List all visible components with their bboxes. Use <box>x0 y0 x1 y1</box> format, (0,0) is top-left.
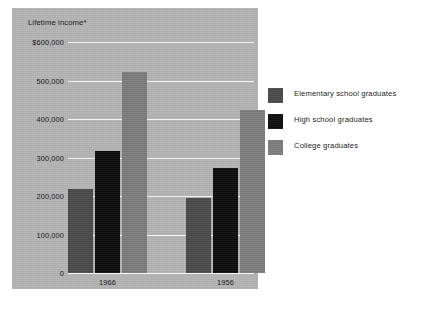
axis-baseline <box>68 273 254 274</box>
legend-label: Elementary school graduates <box>294 89 396 98</box>
y-axis-tick-label: 0 <box>60 269 64 278</box>
x-axis-tick-labels: 19661956 <box>68 278 254 292</box>
bar <box>68 189 93 273</box>
bar-chart-figure: Lifetime income* 0100,000200,000300,0004… <box>0 0 424 309</box>
bar <box>95 151 120 273</box>
legend-item: College graduates <box>268 138 418 164</box>
legend-label: High school graduates <box>294 115 373 124</box>
legend-swatch-texture <box>268 114 283 129</box>
y-axis-tick-label: 500,000 <box>37 76 64 85</box>
x-axis-tick-label: 1956 <box>217 278 234 287</box>
y-axis-tick-labels: 0100,000200,000300,000400,000500,000$600… <box>20 42 64 273</box>
bar-texture <box>68 189 93 273</box>
bar <box>122 72 147 273</box>
y-axis-tick-label: 400,000 <box>37 115 64 124</box>
chart-title: Lifetime income* <box>28 18 87 27</box>
bar <box>213 168 238 273</box>
legend-swatch-elementary <box>268 88 283 103</box>
x-axis-tick-label: 1966 <box>99 278 116 287</box>
y-axis-tick-label: 300,000 <box>37 153 64 162</box>
bar <box>240 110 265 273</box>
bar <box>186 198 211 273</box>
bar-texture <box>240 110 265 273</box>
legend-item: High school graduates <box>268 112 418 138</box>
chart-legend: Elementary school graduatesHigh school g… <box>268 86 418 164</box>
bar-texture <box>95 151 120 273</box>
legend-swatch-high-school <box>268 114 283 129</box>
bar-group-container <box>68 42 254 273</box>
legend-swatch-college <box>268 140 283 155</box>
y-axis-tick-label: $600,000 <box>32 38 64 47</box>
legend-swatch-texture <box>268 140 283 155</box>
bar-texture <box>186 198 211 273</box>
bar-texture <box>213 168 238 273</box>
legend-swatch-texture <box>268 88 283 103</box>
legend-label: College graduates <box>294 141 358 150</box>
legend-item: Elementary school graduates <box>268 86 418 112</box>
y-axis-tick-label: 200,000 <box>37 192 64 201</box>
y-axis-tick-label: 100,000 <box>37 230 64 239</box>
bar-texture <box>122 72 147 273</box>
